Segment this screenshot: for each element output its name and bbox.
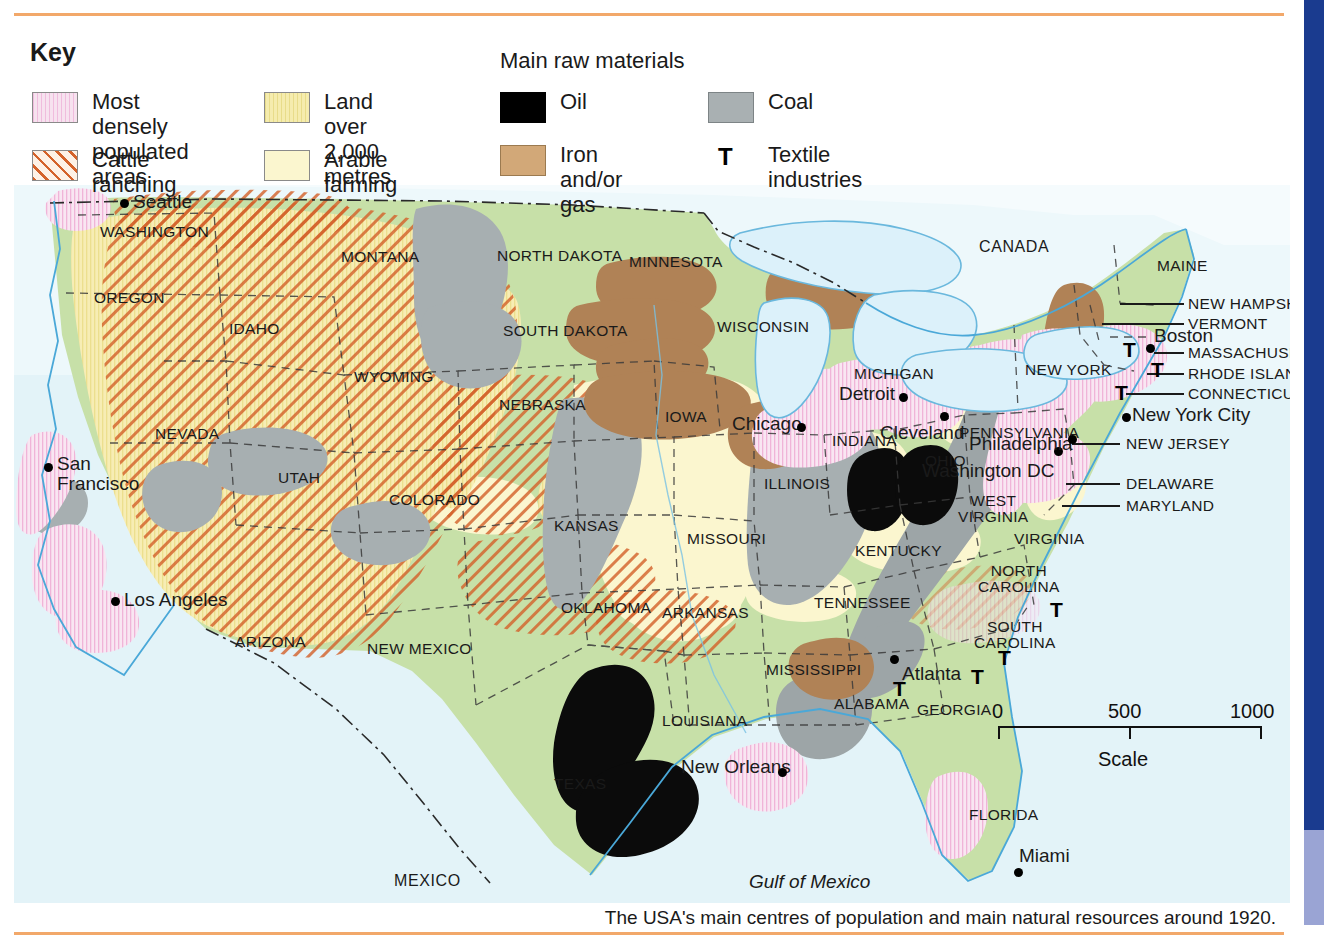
figure-caption: The USA's main centres of population and…	[14, 907, 1290, 929]
map-canvas[interactable]: WASHINGTONOREGONIDAHOMONTANANORTH DAKOTA…	[14, 185, 1290, 903]
legend-swatch-oil	[500, 92, 546, 123]
page-edge-blue	[1304, 0, 1324, 830]
leader-line-new-hampshire	[1120, 303, 1184, 305]
city-dot-san-francisco	[44, 463, 53, 472]
map-graphics	[14, 185, 1290, 903]
leader-line-new-jersey	[1072, 443, 1120, 445]
leader-line-connecticut	[1126, 393, 1184, 395]
leader-line-rhode-island	[1147, 373, 1184, 375]
city-dot-boston	[1146, 344, 1155, 353]
legend-swatch-cattle-ranching	[32, 150, 78, 181]
legend-label-iron-and-or-gas: Iron and/or gas	[560, 142, 622, 217]
legend-swatch-iron-and-or-gas	[500, 145, 546, 176]
city-dot-philadelphia	[1068, 435, 1077, 444]
leader-line-delaware	[1066, 483, 1120, 485]
scale-tick-1000	[1260, 726, 1262, 739]
city-dot-new-orleans	[778, 768, 787, 777]
city-dot-new-york-city	[1122, 413, 1131, 422]
legend-label-oil: Oil	[560, 89, 587, 114]
page-edge-white	[1304, 925, 1324, 951]
figure-top-rule	[14, 13, 1284, 16]
legend-swatch-coal	[708, 92, 754, 123]
city-dot-atlanta	[890, 655, 899, 664]
city-dot-cleveland	[940, 412, 949, 421]
page-edge-lavender	[1304, 830, 1324, 925]
city-dot-seattle	[120, 199, 129, 208]
textile-t-icon: T	[718, 143, 733, 171]
legend-raw-materials-heading: Main raw materials	[500, 48, 685, 74]
legend-swatch-land-over-2000m	[264, 92, 310, 123]
leader-line-vermont	[1102, 323, 1184, 325]
scale-tick-500	[1129, 726, 1131, 739]
figure-header	[0, 0, 1290, 20]
legend-swatch-arable-farming	[264, 150, 310, 181]
scale-label-1000: 1000	[1230, 700, 1275, 723]
legend-label-textile-industries: Textile industries	[768, 142, 862, 192]
scale-tick-0	[998, 726, 1000, 739]
legend-swatch-most-densely-populated	[32, 92, 78, 123]
city-dot-detroit	[899, 393, 908, 402]
leader-line-massachusetts	[1154, 352, 1184, 354]
legend-label-arable-farming: Arable farming	[324, 147, 397, 197]
scale-caption: Scale	[1098, 748, 1148, 771]
page-edge-bar	[1290, 0, 1324, 951]
city-dot-miami	[1014, 868, 1023, 877]
city-dot-los-angeles	[111, 597, 120, 606]
leader-line-maryland	[1062, 505, 1120, 507]
scale-label-0: 0	[992, 700, 1003, 723]
scale-label-500: 500	[1108, 700, 1141, 723]
figure-page: Key Main raw materials Most densely popu…	[0, 0, 1324, 951]
legend-label-coal: Coal	[768, 89, 813, 114]
city-dot-chicago	[797, 423, 806, 432]
city-dot-washington-dc	[1054, 447, 1063, 456]
legend-label-cattle-ranching: Cattle ranching	[92, 147, 176, 197]
figure-bottom-rule	[14, 932, 1284, 935]
map-legend: Key Main raw materials Most densely popu…	[14, 20, 1290, 185]
legend-title: Key	[30, 38, 76, 67]
